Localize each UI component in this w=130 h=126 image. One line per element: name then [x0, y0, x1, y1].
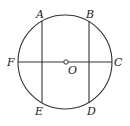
label-d: D: [86, 105, 96, 118]
label-b: B: [85, 8, 94, 21]
label-a: A: [35, 8, 44, 21]
circle-diagram: A B C D E F O: [0, 0, 130, 126]
label-o: O: [68, 64, 77, 77]
label-f: F: [6, 56, 15, 69]
label-c: C: [114, 56, 123, 69]
label-e: E: [34, 105, 43, 118]
